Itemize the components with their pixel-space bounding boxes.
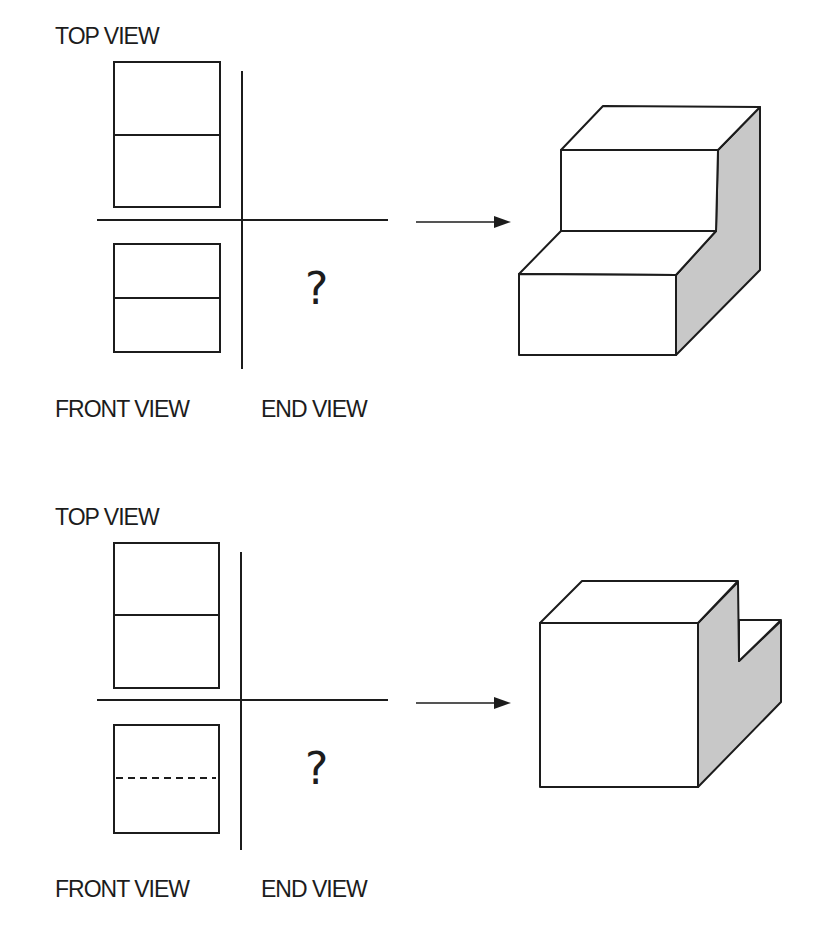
diagram-drawing <box>0 0 838 945</box>
problem-2-end-view-label: END VIEW <box>261 878 367 901</box>
problem-1-isometric-object <box>519 106 760 355</box>
diagram-canvas: TOP VIEW FRONT VIEW END VIEW ? <box>0 0 838 945</box>
problem-2-views <box>97 543 388 850</box>
problem-2-shaded-side-face <box>698 582 781 787</box>
problem-2-top-view-label: TOP VIEW <box>55 506 159 529</box>
problem-1-lower-front-face <box>519 274 676 355</box>
problem-1-upper-front-face <box>561 150 718 231</box>
problem-1-arrow-icon <box>416 216 511 228</box>
problem-2-end-view-question-mark: ? <box>305 747 328 791</box>
problem-2-front-face <box>540 623 698 787</box>
problem-1-views <box>97 62 388 369</box>
problem-2-arrow-icon <box>416 697 511 709</box>
problem-2-front-view-label: FRONT VIEW <box>55 878 189 901</box>
problem-2-isometric-object <box>540 581 781 787</box>
